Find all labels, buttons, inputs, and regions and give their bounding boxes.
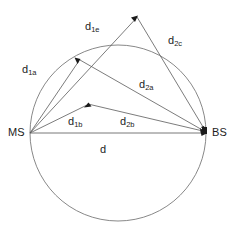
node-label-ms: MS — [8, 127, 25, 138]
d1a-sub: 1a — [28, 68, 36, 77]
arrowhead-upper-left-scatterer — [75, 58, 81, 65]
d2a-sub: 2a — [145, 83, 153, 92]
node-label-bs: BS — [212, 127, 227, 138]
geometry-canvas — [0, 0, 236, 233]
distance-label-d1e: d1e — [85, 21, 99, 32]
arrowhead-bs-cluster — [202, 127, 207, 134]
arrowhead-top-scatterer — [131, 16, 138, 23]
distance-label-d1b: d1b — [68, 116, 82, 127]
d2c-sub: 2c — [174, 39, 182, 48]
path-upper-left-scatterer-to-bs — [80, 60, 205, 132]
path-middle-scatterer-to-bs — [88, 104, 205, 132]
distance-label-d2b: d2b — [120, 116, 134, 127]
d1e-sub: 1e — [91, 25, 99, 34]
d-base: d — [100, 143, 106, 155]
distance-label-d: d — [100, 144, 106, 155]
arrowhead-middle-scatterer — [84, 103, 92, 108]
d1b-sub: 1b — [74, 120, 82, 129]
scattering-geometry-diagram: MS BS d1a d1e d2c d2a d1b d2b d — [0, 0, 236, 233]
distance-label-d1a: d1a — [22, 64, 36, 75]
distance-label-d2a: d2a — [139, 79, 153, 90]
distance-label-d2c: d2c — [168, 35, 182, 46]
d2b-sub: 2b — [126, 120, 134, 129]
